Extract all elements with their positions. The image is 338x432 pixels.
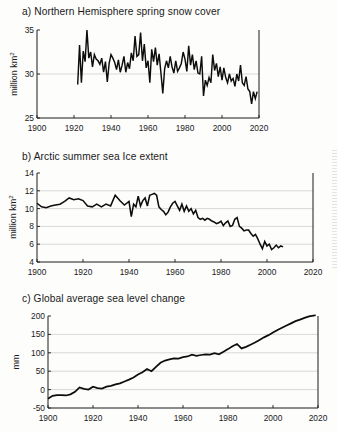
svg-text:2000: 2000 [213, 123, 232, 133]
panel-b-series-line [37, 193, 283, 249]
svg-text:25: 25 [25, 113, 35, 123]
svg-text:1940: 1940 [129, 413, 148, 423]
svg-text:35: 35 [25, 25, 35, 35]
svg-text:1940: 1940 [102, 123, 121, 133]
svg-text:1980: 1980 [176, 123, 195, 133]
svg-text:1920: 1920 [74, 267, 93, 277]
svg-text:30: 30 [25, 69, 35, 79]
svg-text:14: 14 [25, 168, 35, 178]
panel-a-svg: 253035 1900192019401960198020002020 mill… [0, 0, 338, 145]
panel-snow-cover: a) Northern Hemisphere spring snow cover… [0, 0, 338, 145]
svg-text:1960: 1960 [139, 123, 158, 133]
svg-text:2000: 2000 [258, 267, 277, 277]
svg-text:150: 150 [31, 329, 45, 339]
panel-c-ytick-labels: -50050100150200 [31, 311, 45, 413]
svg-text:2020: 2020 [304, 267, 323, 277]
panel-c-gridlines [48, 334, 318, 389]
panel-c-ylabel: mm [11, 355, 21, 370]
scan-edge-artifact [332, 150, 337, 270]
svg-text:1960: 1960 [166, 267, 185, 277]
panel-b-svg: 468101214 1900192019401960198020002020 m… [0, 145, 338, 288]
panel-b-ytick-labels: 468101214 [25, 168, 35, 267]
svg-text:8: 8 [29, 221, 34, 231]
svg-text:200: 200 [31, 311, 45, 321]
svg-text:1900: 1900 [39, 413, 58, 423]
panel-c-plot: -50050100150200 190019201940196019802000… [0, 288, 338, 432]
panel-a-plot: 253035 1900192019401960198020002020 mill… [0, 0, 338, 145]
svg-text:10: 10 [25, 204, 35, 214]
svg-text:1960: 1960 [174, 413, 193, 423]
svg-text:1920: 1920 [65, 123, 84, 133]
panel-sea-ice: b) Arctic summer sea Ice extent 46810121… [0, 145, 338, 288]
svg-text:4: 4 [29, 257, 34, 267]
svg-text:12: 12 [25, 186, 35, 196]
panel-a-series-line [78, 30, 257, 104]
panel-a-ytick-labels: 253035 [25, 25, 35, 123]
figure-root: { "figure": { "background": "#fdfdfc", "… [0, 0, 338, 432]
panel-c-xtick-labels: 1900192019401960198020002020 [39, 413, 328, 423]
panel-c-svg: -50050100150200 190019201940196019802000… [0, 288, 338, 432]
panel-b-ylabel: million km2 [7, 195, 18, 239]
svg-text:2020: 2020 [309, 413, 328, 423]
svg-text:1980: 1980 [212, 267, 231, 277]
panel-b-plot: 468101214 1900192019401960198020002020 m… [0, 145, 338, 288]
svg-text:1940: 1940 [120, 267, 139, 277]
svg-text:-50: -50 [33, 403, 45, 413]
panel-b-xtick-labels: 1900192019401960198020002020 [28, 267, 323, 277]
svg-text:1900: 1900 [28, 267, 47, 277]
svg-text:100: 100 [31, 348, 45, 358]
svg-text:1900: 1900 [28, 123, 47, 133]
svg-text:0: 0 [40, 385, 45, 395]
svg-text:1920: 1920 [84, 413, 103, 423]
panel-c-series-line [48, 315, 316, 399]
svg-text:2000: 2000 [264, 413, 283, 423]
svg-text:6: 6 [29, 239, 34, 249]
svg-text:50: 50 [36, 366, 46, 376]
svg-text:1980: 1980 [219, 413, 238, 423]
panel-sea-level: c) Global average sea level change -5005… [0, 288, 338, 432]
panel-a-xtick-labels: 1900192019401960198020002020 [28, 123, 269, 133]
panel-a-ylabel: million km2 [8, 52, 19, 96]
svg-text:2020: 2020 [250, 123, 269, 133]
